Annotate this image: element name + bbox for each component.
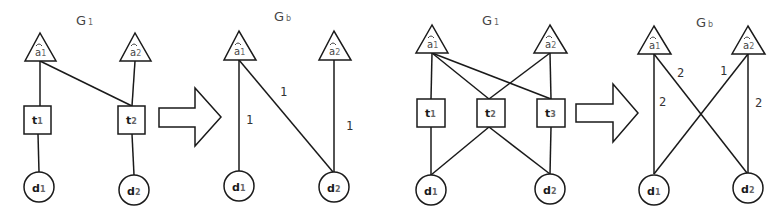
edge-weight-label: 1 (346, 119, 353, 133)
edge-weight-label: 1 (720, 64, 727, 78)
edge-a2-t2 (489, 53, 550, 99)
edge-a2-t2 (132, 61, 135, 106)
aspect-node-a2: a2 (120, 33, 151, 61)
edge-t2-d1 (431, 127, 489, 175)
edge-t2-d2 (132, 134, 134, 175)
right-arrow-icon (159, 88, 221, 146)
edge-a1-t2 (432, 53, 489, 99)
doc-node-d1: d1 (24, 172, 54, 202)
panel-gb-left: Gb 1 1 1 a1 a2 d1 d2 (224, 9, 353, 202)
doc-node-d2: d2 (733, 173, 763, 203)
panel-title: G1 (76, 13, 93, 28)
aspect-node-a2: a2 (732, 26, 765, 54)
edge-t2-d2 (489, 127, 550, 174)
doc-node-d2: d2 (319, 172, 349, 202)
aspect-node-a1: a1 (416, 25, 448, 53)
node-label: a1 (234, 46, 245, 57)
aspect-node-a1: a1 (25, 33, 56, 61)
node-label: a2 (743, 40, 754, 51)
edge-weight-label: 2 (755, 96, 762, 110)
aspect-node-a1: a1 (224, 31, 256, 60)
edge-weight-label: 1 (280, 85, 287, 99)
doc-node-d2: d2 (535, 174, 565, 204)
panel-gb-right: Gb 2 2 1 2 a1 a2 d1 d2 (638, 15, 765, 205)
aspect-node-a1: a1 (638, 26, 671, 54)
edge-a1-t3 (432, 53, 551, 99)
aspect-node-a2: a2 (319, 31, 351, 60)
node-label: a1 (35, 47, 46, 58)
right-arrow-icon (576, 84, 638, 142)
doc-node-d2: d2 (119, 175, 149, 205)
term-node-t2: t2 (477, 99, 505, 127)
term-node-t1: t1 (417, 99, 445, 127)
doc-node-d1: d1 (224, 171, 254, 201)
panel-title: G1 (482, 13, 499, 28)
node-label: a2 (545, 39, 556, 50)
node-label: a1 (427, 39, 438, 50)
edge-a1-t2 (40, 61, 132, 106)
node-label: a1 (649, 40, 660, 51)
panel-title: Gb (274, 9, 291, 24)
edge-a1-t1 (431, 53, 432, 99)
node-label: a2 (130, 47, 141, 58)
edge-a2-t3 (550, 53, 551, 99)
doc-node-d1: d1 (639, 175, 669, 205)
term-node-t1: t1 (24, 106, 51, 134)
edge-weight-label: 1 (246, 113, 253, 127)
panel-g1-right: G1 a1 a2 t1 t2 t3 (416, 13, 567, 205)
aspect-node-a2: a2 (534, 25, 567, 53)
edge-t1-d1 (38, 134, 39, 172)
panel-title: Gb (696, 15, 713, 30)
node-label: a2 (329, 46, 340, 57)
edge-t3-d2 (550, 127, 551, 174)
graph-transformation-figure: G1 a1 a2 t1 t2 d1 d2 (0, 0, 784, 216)
edge-weight-label: 2 (659, 95, 666, 109)
term-node-t3: t3 (537, 99, 565, 127)
doc-node-d1: d1 (416, 175, 446, 205)
edge-weight-label: 2 (677, 66, 684, 80)
panel-g1-left: G1 a1 a2 t1 t2 d1 d2 (24, 13, 151, 205)
term-node-t2: t2 (118, 106, 145, 134)
